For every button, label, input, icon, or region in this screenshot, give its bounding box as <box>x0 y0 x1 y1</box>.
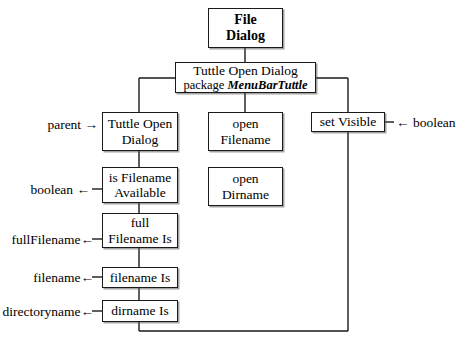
node-open-filename-line1: open <box>232 116 258 131</box>
node-tuttle-open-dialog-class[interactable]: Tuttle Open Dialog package MenuBarTuttle <box>175 62 316 93</box>
node-file-dialog-line2: Dialog <box>226 28 265 44</box>
node-class-name: Tuttle Open Dialog <box>193 63 298 78</box>
label-boolean-output: boolean ← <box>0 183 90 197</box>
node-set-visible-label: set Visible <box>320 114 376 129</box>
node-open-filename[interactable]: open Filename <box>208 112 283 151</box>
node-ctor-line2: Dialog <box>122 132 159 147</box>
label-fullfilename-output: fullFilename← <box>0 233 94 247</box>
label-directoryname-output: directoryname← <box>0 305 94 319</box>
node-file-dialog-line1: File <box>234 12 257 28</box>
node-file-dialog[interactable]: File Dialog <box>208 8 283 48</box>
node-ctor-line1: Tuttle Open <box>108 116 172 131</box>
node-tuttle-open-dialog-ctor[interactable]: Tuttle Open Dialog <box>102 112 178 151</box>
node-dirname-is-label: dirname Is <box>111 303 168 318</box>
node-open-dirname-line2: Dirname <box>222 187 269 202</box>
node-filename-is-label: filename Is <box>110 270 170 285</box>
node-open-dirname-line1: open <box>232 171 258 186</box>
package-keyword: package <box>183 78 227 92</box>
node-open-dirname[interactable]: open Dirname <box>208 167 283 206</box>
node-is-filename-line2: Available <box>114 185 165 200</box>
label-parent-input: parent → <box>0 118 98 132</box>
node-open-filename-line2: Filename <box>220 132 270 147</box>
node-filename-is[interactable]: filename Is <box>102 267 178 288</box>
node-full-filename-line1: full <box>131 215 150 230</box>
node-dirname-is[interactable]: dirname Is <box>102 300 178 322</box>
package-name: MenuBarTuttle <box>227 78 307 92</box>
label-filename-output: filename← <box>0 271 94 285</box>
node-full-filename-line2: Filename Is <box>108 231 171 246</box>
node-class-package: package MenuBarTuttle <box>183 78 307 92</box>
node-full-filename-is[interactable]: full Filename Is <box>102 213 178 248</box>
label-boolean-input: ← boolean <box>396 116 456 130</box>
node-is-filename-available[interactable]: is Filename Available <box>102 167 178 203</box>
diagram-canvas: File Dialog Tuttle Open Dialog package M… <box>0 0 459 345</box>
node-set-visible[interactable]: set Visible <box>311 112 385 132</box>
node-is-filename-line1: is Filename <box>109 170 172 185</box>
